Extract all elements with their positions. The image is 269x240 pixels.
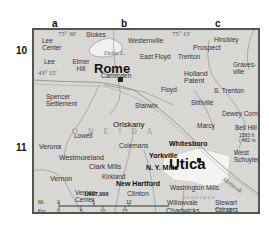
place-lee-center: Lee Center <box>42 38 64 51</box>
place-holland-patent: Holland Patent <box>184 70 216 84</box>
place-spencer-settlement: Spencer Settlement <box>46 94 80 107</box>
place-stewart-corners: Stewart Corners <box>215 200 241 213</box>
coord-lon-75-15-top: 75° 15' <box>172 31 190 38</box>
place-gravesville: Graves-ville <box>233 62 253 75</box>
place-clark-mills: Clark Mills <box>89 163 121 170</box>
town-ny-mills: N. Y. Mills <box>146 164 178 171</box>
scale-mi-label: Mi. <box>38 200 45 205</box>
place-stittville: Stittville <box>191 100 213 107</box>
place-westernville: Westernville <box>128 38 163 45</box>
place-stanwix: Stanwix <box>135 103 158 110</box>
place-westmoreland: Westmoreland <box>59 154 104 161</box>
place-prospect: Prospect <box>193 44 221 51</box>
place-dewey-corners: Dewey Corners <box>222 111 260 118</box>
grid-row-11: 11 <box>16 142 27 153</box>
scale-mi-5: 5 <box>92 200 95 205</box>
place-lee: Lee <box>44 59 55 66</box>
place-bell-hill: Bell Hill <box>235 125 257 132</box>
bell-hill-elevation: 1583 ft / 482 m <box>239 133 257 143</box>
place-clinton: Clinton <box>127 190 149 197</box>
place-colemans: Colemans <box>119 143 148 150</box>
scale-mi-10: 10 <box>126 200 132 205</box>
place-s-trenton: S. Trenton <box>214 88 244 95</box>
place-chadwicks: Chadwicks <box>166 207 200 214</box>
coord-lon-75-30: 75° 30' <box>58 31 76 38</box>
place-west-schuyler: West Schuyler <box>234 150 258 163</box>
place-east-floyd: East Floyd <box>140 54 171 61</box>
place-marcy: Marcy <box>197 123 215 130</box>
scale-ratio: 1/697,000 <box>84 192 108 198</box>
scale-km-0: 0 <box>57 209 60 214</box>
place-willowvale: Willowvale <box>167 200 198 207</box>
town-whitesboro: Whitesboro <box>169 140 208 147</box>
scale-km-15: 15 <box>122 209 128 214</box>
place-verona: Verona <box>39 143 61 150</box>
scale-km-10: 10 <box>100 209 106 214</box>
coord-lat-43-15: 43° 15' <box>38 70 56 77</box>
place-camroden: Camroden <box>101 73 131 80</box>
place-lowell: Lowell <box>74 133 92 140</box>
place-trenton: Trenton <box>178 54 200 61</box>
town-oriskany: Oriskany <box>113 121 145 129</box>
scale-km-label: Km. <box>38 209 47 214</box>
place-stokes: Stokes <box>86 32 106 39</box>
place-hinckley: Hinckley <box>214 37 239 44</box>
town-new-hartford: New Hartford <box>116 180 160 187</box>
map-frame: 75° 30' 75° 15' 43° 15' 75° 15' Delta L.… <box>32 28 260 214</box>
place-elmer-hill: Elmer Hill <box>72 59 90 72</box>
place-vernon: Vernon <box>50 175 72 182</box>
grid-row-10: 10 <box>16 45 27 56</box>
scale-km-5: 5 <box>80 209 83 214</box>
place-washington-mills: Washington Mills <box>170 185 219 192</box>
delta-lake-label: Delta L. <box>104 50 125 57</box>
place-floyd: Floyd <box>161 87 177 94</box>
town-yorkville: Yorkville <box>149 152 178 159</box>
place-kirkland: Kirkland <box>102 174 125 181</box>
scale-mi-0: 0 <box>57 200 60 205</box>
